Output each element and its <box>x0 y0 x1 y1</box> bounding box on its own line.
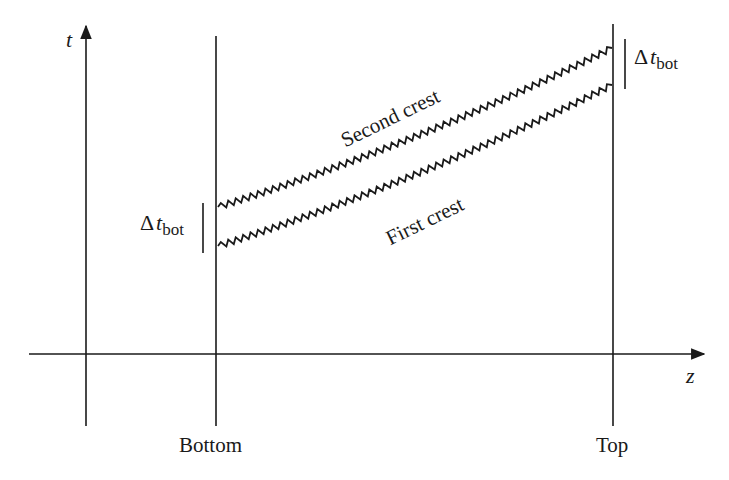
delta-t-bot-label-left: Δ tbot <box>140 210 184 240</box>
t-axis-label: t <box>66 27 72 53</box>
top-label: Top <box>596 433 628 458</box>
delta-sub: bot <box>656 54 678 73</box>
delta-symbol: Δ <box>140 210 154 235</box>
z-axis-label: z <box>686 363 695 389</box>
diagram-canvas <box>0 0 729 480</box>
delta-symbol: Δ <box>634 44 648 69</box>
bottom-label: Bottom <box>179 433 242 458</box>
delta-sub: bot <box>162 220 184 239</box>
delta-t-bot-label-right: Δ tbot <box>634 44 678 74</box>
second-crest-wave <box>218 47 612 207</box>
